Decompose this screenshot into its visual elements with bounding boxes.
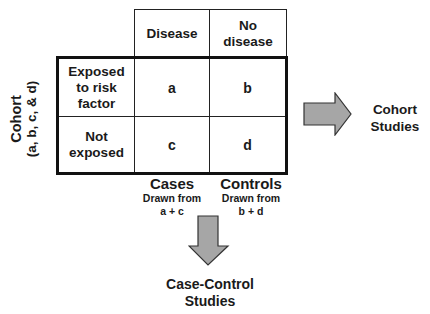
cell-c-value: c	[168, 137, 176, 153]
cell-b-value: b	[243, 80, 252, 96]
controls-footer: Controls Drawn from b + d	[206, 175, 296, 218]
column-header-disease: Disease	[135, 10, 209, 57]
down-arrow-icon	[188, 215, 230, 267]
controls-line1: Drawn from	[206, 192, 296, 205]
row-header-not-exposed-label: Not exposed	[67, 129, 127, 161]
cases-footer: Cases Drawn from a + c	[130, 175, 214, 218]
column-header-disease-label: Disease	[146, 26, 197, 42]
right-arrow-icon	[303, 92, 353, 136]
cell-c: c	[135, 117, 209, 172]
case-control-studies-label: Case-Control Studies	[150, 276, 270, 310]
cell-a: a	[135, 59, 209, 116]
cohort-side-label: Cohort (a, b, c, & d)	[8, 49, 42, 189]
cohort-studies-line2: Studies	[360, 118, 430, 135]
cohort-side-title: Cohort	[8, 49, 24, 189]
cohort-studies-label: Cohort Studies	[360, 101, 430, 135]
cases-line1: Drawn from	[130, 192, 214, 205]
cohort-side-subtitle: (a, b, c, & d)	[24, 49, 40, 189]
cohort-studies-line1: Cohort	[360, 101, 430, 118]
cell-d-value: d	[243, 137, 252, 153]
header-right-border	[286, 9, 287, 57]
cell-d: d	[210, 117, 285, 172]
cell-a-value: a	[168, 80, 176, 96]
case-control-line1: Case-Control	[150, 276, 270, 293]
controls-title: Controls	[206, 175, 296, 192]
row-header-exposed-label: Exposed to risk factor	[64, 64, 130, 112]
column-header-no-disease-label: No disease	[218, 18, 278, 50]
column-header-no-disease: No disease	[210, 10, 286, 57]
row-header-exposed: Exposed to risk factor	[59, 59, 134, 116]
cases-title: Cases	[130, 175, 214, 192]
row-header-not-exposed: Not exposed	[59, 117, 134, 172]
case-control-line2: Studies	[150, 293, 270, 310]
cell-b: b	[210, 59, 285, 116]
